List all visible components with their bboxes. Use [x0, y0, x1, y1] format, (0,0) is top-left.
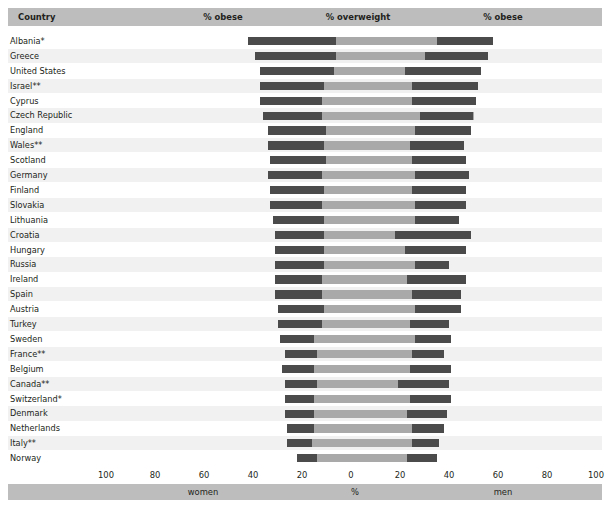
x-axis-tick: 100 — [581, 468, 610, 482]
bar-men-obese — [410, 365, 452, 373]
x-axis-tick: 100 — [91, 468, 121, 482]
bar-group — [8, 392, 602, 406]
bar-men-obese — [398, 380, 449, 388]
bar-women-obese — [270, 201, 321, 209]
x-axis-tick: 20 — [287, 468, 317, 482]
x-axis-tick: 80 — [140, 468, 170, 482]
bar-group — [8, 243, 602, 257]
bar-women-obese — [287, 439, 312, 447]
bar-group — [8, 302, 602, 316]
header-country-label: Country — [18, 8, 55, 26]
bar-women-obese — [248, 37, 336, 45]
bar-group — [8, 257, 602, 271]
chart-row: Cyprus — [8, 94, 602, 108]
bar-women-obese — [255, 52, 336, 60]
chart-row: Lithuania — [8, 213, 602, 227]
header-overweight-label: % overweight — [303, 8, 413, 26]
x-axis-tick: 40 — [434, 468, 464, 482]
chart-row: Scotland — [8, 153, 602, 167]
bar-women-obese — [297, 454, 317, 462]
chart-row: England — [8, 123, 602, 137]
bar-women-obese — [275, 275, 322, 283]
chart-plot-area: Albania*GreeceUnited StatesIsrael**Cypru… — [8, 34, 602, 466]
bar-group — [8, 228, 602, 242]
chart-row: Croatia — [8, 228, 602, 242]
bar-group — [8, 421, 602, 435]
bar-men-obese — [425, 52, 489, 60]
bar-men-obese — [407, 275, 466, 283]
chart-page: Country % obese % overweight % obese Alb… — [0, 0, 610, 508]
chart-row: Switzerland* — [8, 392, 602, 406]
bar-group — [8, 138, 602, 152]
bar-women-obese — [285, 380, 317, 388]
bar-women-obese — [285, 410, 314, 418]
bar-group — [8, 34, 602, 48]
chart-row: Hungary — [8, 243, 602, 257]
bar-men-obese — [412, 156, 466, 164]
chart-row: Norway — [8, 451, 602, 465]
chart-row: Spain — [8, 287, 602, 301]
footer-percent-label: % — [335, 484, 375, 500]
bar-women-obese — [285, 395, 314, 403]
x-axis-tick: 80 — [532, 468, 562, 482]
x-axis-tick: 20 — [385, 468, 415, 482]
chart-row: Wales** — [8, 138, 602, 152]
bar-women-obese — [278, 305, 325, 313]
bar-women-obese — [275, 246, 324, 254]
header-obese-women-label: % obese — [168, 8, 278, 26]
bar-women-obese — [260, 97, 321, 105]
chart-row: Denmark — [8, 406, 602, 420]
bar-men-obese — [407, 454, 436, 462]
chart-row: Ireland — [8, 272, 602, 286]
bar-women-obese — [280, 335, 314, 343]
bar-men-obese — [415, 216, 459, 224]
bar-men-obese — [415, 201, 466, 209]
footer-women-label: women — [148, 484, 258, 500]
bar-men-obese — [437, 37, 493, 45]
chart-row: Turkey — [8, 317, 602, 331]
x-axis-tick: 0 — [336, 468, 366, 482]
bar-group — [8, 108, 602, 122]
bar-group — [8, 287, 602, 301]
chart-row: Slovakia — [8, 198, 602, 212]
x-axis: 10080604020020406080100 — [8, 468, 602, 482]
bar-men-obese — [407, 410, 446, 418]
chart-row: Netherlands — [8, 421, 602, 435]
bar-group — [8, 406, 602, 420]
chart-row: Russia — [8, 257, 602, 271]
bar-women-obese — [260, 67, 334, 75]
bar-women-obese — [263, 112, 322, 120]
chart-row: Italy** — [8, 436, 602, 450]
bar-men-obese — [415, 126, 471, 134]
bar-group — [8, 332, 602, 346]
bar-group — [8, 153, 602, 167]
bar-group — [8, 362, 602, 376]
bar-group — [8, 198, 602, 212]
chart-row: Canada** — [8, 377, 602, 391]
bar-men-obese — [415, 335, 452, 343]
bar-group — [8, 183, 602, 197]
chart-row: Germany — [8, 168, 602, 182]
bar-women-obese — [273, 216, 324, 224]
bar-women-obese — [275, 261, 324, 269]
bar-group — [8, 168, 602, 182]
bar-group — [8, 272, 602, 286]
chart-footer-band: women % men — [8, 484, 602, 500]
bar-group — [8, 64, 602, 78]
bar-women-obese — [268, 141, 324, 149]
bar-group — [8, 49, 602, 63]
bar-men-obese — [412, 439, 439, 447]
bar-women-obese — [270, 156, 326, 164]
chart-row: Austria — [8, 302, 602, 316]
bar-men-obese — [412, 97, 476, 105]
bar-group — [8, 94, 602, 108]
bar-men-obese — [420, 112, 474, 120]
bar-group — [8, 451, 602, 465]
bar-women-obese — [270, 186, 324, 194]
x-axis-tick: 60 — [189, 468, 219, 482]
bar-men-obese — [415, 171, 469, 179]
bar-group — [8, 79, 602, 93]
bar-men-obese — [395, 231, 471, 239]
chart-row: Belgium — [8, 362, 602, 376]
bar-women-obese — [287, 424, 314, 432]
